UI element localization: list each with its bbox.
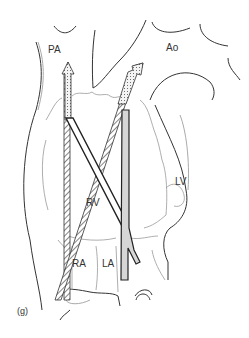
arrow-la-to-ao — [121, 110, 140, 280]
label-la: LA — [102, 258, 114, 269]
label-ao: Ao — [166, 42, 178, 53]
label-pa: PA — [48, 44, 61, 55]
label-rv: RV — [86, 197, 100, 208]
heart-diagram — [0, 0, 249, 338]
label-lv: LV — [175, 176, 187, 187]
label-ra: RA — [72, 258, 86, 269]
heart-outline — [24, 20, 240, 320]
arrow-la-to-pa — [66, 118, 127, 228]
panel-label: (g) — [17, 306, 28, 316]
